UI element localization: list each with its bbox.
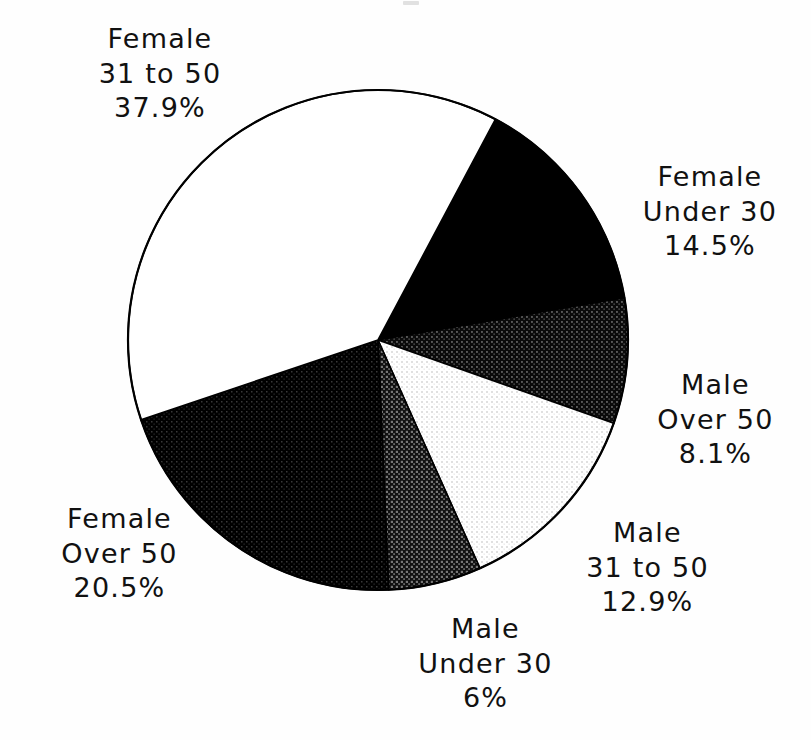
label-line-percent: 37.9% bbox=[45, 91, 275, 126]
label-line-age: 31 to 50 bbox=[540, 551, 755, 586]
label-line-category: Female bbox=[12, 502, 227, 537]
label-line-age: Over 50 bbox=[628, 403, 803, 438]
label-line-category: Male bbox=[628, 368, 803, 403]
slice-label-female-31-to-50: Female 31 to 50 37.9% bbox=[45, 22, 275, 126]
label-line-category: Male bbox=[540, 516, 755, 551]
label-line-category: Female bbox=[610, 160, 810, 195]
label-line-category: Male bbox=[378, 612, 593, 647]
slice-label-male-31-to-50: Male 31 to 50 12.9% bbox=[540, 516, 755, 620]
label-line-age: 31 to 50 bbox=[45, 57, 275, 92]
label-line-category: Female bbox=[45, 22, 275, 57]
label-line-percent: 6% bbox=[378, 681, 593, 716]
label-line-percent: 20.5% bbox=[12, 571, 227, 606]
slice-label-female-under-30: Female Under 30 14.5% bbox=[610, 160, 810, 264]
slice-label-male-over-50: Male Over 50 8.1% bbox=[628, 368, 803, 472]
pie-chart-page: Female 31 to 50 37.9% Female Under 30 14… bbox=[0, 0, 811, 740]
slice-label-male-under-30: Male Under 30 6% bbox=[378, 612, 593, 716]
label-line-percent: 14.5% bbox=[610, 229, 810, 264]
label-line-age: Under 30 bbox=[378, 647, 593, 682]
label-line-age: Over 50 bbox=[12, 537, 227, 572]
label-line-percent: 8.1% bbox=[628, 437, 803, 472]
label-line-age: Under 30 bbox=[610, 195, 810, 230]
slice-label-female-over-50: Female Over 50 20.5% bbox=[12, 502, 227, 606]
